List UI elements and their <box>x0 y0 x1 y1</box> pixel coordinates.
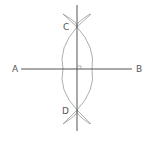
perpendicular-bisector-diagram: A B C D <box>0 0 152 141</box>
label-b: B <box>136 64 142 74</box>
label-d: D <box>62 106 69 116</box>
arc-cross-c-right <box>77 14 91 27</box>
label-a: A <box>12 64 19 74</box>
arc-cross-d-right <box>77 110 91 124</box>
label-c: C <box>63 22 69 32</box>
